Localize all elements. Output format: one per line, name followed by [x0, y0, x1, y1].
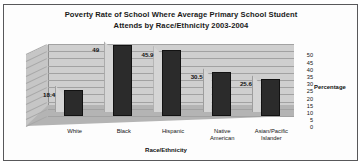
x-category-label: Hispanic: [147, 128, 199, 135]
y-axis-title: Percentage: [314, 84, 346, 90]
y-tick-label-45: 45: [307, 60, 313, 66]
gridline-0: [48, 116, 294, 117]
y-tick-label-5: 5: [310, 117, 313, 123]
y-tick-label-50: 50: [307, 52, 313, 58]
bar-value-label: 25.6: [240, 80, 252, 87]
bar-value-label: 18.4: [43, 91, 55, 98]
x-category-label: Asian/Pacific Islander: [245, 128, 297, 142]
bar-white: [64, 90, 83, 117]
bar-front-face: [113, 45, 132, 116]
y-tick-label-20: 20: [307, 96, 313, 102]
bar-asian-pacific-islander: [261, 79, 280, 116]
bar-hispanic: [162, 50, 181, 116]
bar-value-label: 45.9: [141, 51, 153, 58]
x-category-label: Native American: [196, 128, 248, 142]
chart-figure: Poverty Rate of School Where Average Pri…: [0, 0, 362, 166]
chart-title-line-1: Poverty Rate of School Where Average Pri…: [65, 10, 298, 19]
y-tick-label-15: 15: [307, 103, 313, 109]
y-tick-label-40: 40: [307, 67, 313, 73]
chart-title: Poverty Rate of School Where Average Pri…: [16, 10, 346, 31]
x-category-label: Black: [98, 128, 150, 135]
bar-black: [113, 45, 132, 116]
chart-title-line-2: Attends by Race/Ethnicity 2003-2004: [16, 21, 346, 32]
bar-native-american: [212, 72, 231, 116]
bar-front-face: [162, 50, 181, 116]
gridline-50: [48, 44, 294, 45]
x-category-label: White: [49, 128, 101, 135]
x-axis-title: Race/Ethnicity: [16, 146, 316, 153]
y-tick-label-30: 30: [307, 81, 313, 87]
y-axis-ticks: 50454035302520151050: [297, 45, 313, 127]
y-tick-label-35: 35: [307, 74, 313, 80]
bar-front-face: [64, 90, 83, 117]
bar-value-label: 30.5: [191, 73, 203, 80]
y-tick-label-0: 0: [310, 124, 313, 130]
y-tick-label-10: 10: [307, 110, 313, 116]
bar-value-label: 49: [92, 46, 99, 53]
bar-side-face: [104, 41, 113, 112]
bar-front-face: [212, 72, 231, 116]
plot-area: 18.44945.930.525.6: [26, 44, 294, 126]
bar-front-face: [261, 79, 280, 116]
y-tick-label-25: 25: [307, 88, 313, 94]
bar-side-face: [153, 46, 162, 112]
